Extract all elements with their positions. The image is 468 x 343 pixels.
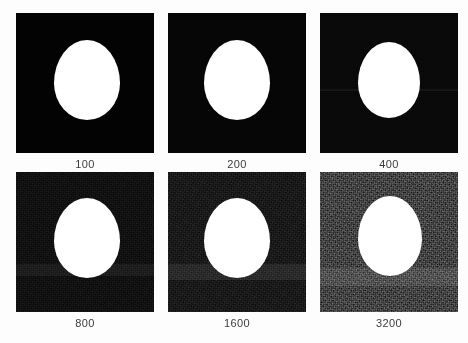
subject-blob (204, 40, 270, 120)
iso-sample-image (16, 172, 154, 312)
iso-comparison-grid: 10020040080016003200 (0, 0, 468, 343)
subject-blob (358, 196, 422, 276)
iso-sample-image (16, 13, 154, 153)
iso-sample-image (320, 172, 458, 312)
iso-value-label: 100 (16, 158, 154, 170)
iso-value-label: 800 (16, 317, 154, 329)
iso-sample-image (168, 13, 306, 153)
iso-value-label: 1600 (168, 317, 306, 329)
iso-sample-image (320, 13, 458, 153)
iso-value-label: 200 (168, 158, 306, 170)
subject-blob (54, 198, 120, 278)
subject-blob (204, 198, 270, 278)
iso-sample-image (168, 172, 306, 312)
subject-blob (358, 42, 420, 118)
subject-blob (54, 40, 120, 120)
iso-value-label: 400 (320, 158, 458, 170)
iso-value-label: 3200 (320, 317, 458, 329)
